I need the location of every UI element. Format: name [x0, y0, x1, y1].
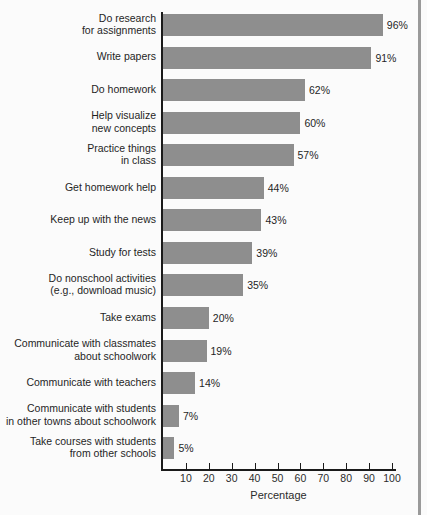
category-label: Communicate with students in other towns…: [0, 402, 156, 427]
bar: [163, 405, 179, 427]
bar: [163, 372, 195, 394]
x-axis-tick-label: 70: [317, 472, 329, 484]
bar-value-label: 39%: [256, 247, 277, 259]
x-axis-tick: [186, 463, 187, 470]
bar: [163, 242, 252, 264]
figure-right-rule: [418, 0, 421, 515]
x-axis-tick-label: 90: [363, 472, 375, 484]
bar: [163, 144, 294, 166]
x-axis-tick-label: 10: [180, 472, 192, 484]
category-label: Study for tests: [0, 246, 156, 259]
x-axis-tick: [278, 463, 279, 470]
x-axis-tick: [255, 463, 256, 470]
bar-value-label: 19%: [211, 345, 232, 357]
category-label: Get homework help: [0, 181, 156, 194]
bar-value-label: 96%: [387, 19, 408, 31]
category-label: Take exams: [0, 311, 156, 324]
bar-value-label: 91%: [375, 52, 396, 64]
bar-chart-figure: Do research for assignments96%Write pape…: [0, 0, 427, 515]
bar: [163, 14, 383, 36]
bar-value-label: 62%: [309, 84, 330, 96]
category-label: Communicate with classmates about school…: [0, 337, 156, 362]
x-axis-tick-label: 100: [383, 472, 401, 484]
category-label: Practice things in class: [0, 142, 156, 167]
x-axis-tick-label: 30: [226, 472, 238, 484]
bar: [163, 79, 305, 101]
x-axis-tick-label: 60: [295, 472, 307, 484]
bar-value-label: 43%: [265, 214, 286, 226]
x-axis-tick: [392, 463, 393, 470]
category-label: Do nonschool activities (e.g., download …: [0, 272, 156, 297]
x-axis-tick: [232, 463, 233, 470]
bar-value-label: 57%: [298, 149, 319, 161]
value-axis-line: [161, 469, 396, 471]
bar-value-label: 7%: [183, 410, 198, 422]
bar: [163, 340, 207, 362]
x-axis-tick: [369, 463, 370, 470]
bar: [163, 274, 243, 296]
x-axis-tick-label: 40: [249, 472, 261, 484]
bar-value-label: 44%: [268, 182, 289, 194]
bar: [163, 47, 371, 69]
x-axis-tick: [323, 463, 324, 470]
bar-value-label: 60%: [304, 117, 325, 129]
bar: [163, 112, 300, 134]
bar: [163, 209, 261, 231]
x-axis-tick-label: 50: [272, 472, 284, 484]
category-label: Help visualize new concepts: [0, 109, 156, 134]
bar: [163, 307, 209, 329]
bar: [163, 177, 264, 199]
category-label: Take courses with students from other sc…: [0, 435, 156, 460]
bar-value-label: 5%: [178, 442, 193, 454]
category-label: Keep up with the news: [0, 213, 156, 226]
bar-value-label: 20%: [213, 312, 234, 324]
category-label: Do research for assignments: [0, 12, 156, 37]
x-axis-tick: [346, 463, 347, 470]
x-axis-tick: [300, 463, 301, 470]
x-axis-tick: [209, 463, 210, 470]
category-label: Do homework: [0, 83, 156, 96]
plot-area: Do research for assignments96%Write pape…: [0, 0, 418, 515]
x-axis-tick-label: 20: [203, 472, 215, 484]
category-label: Communicate with teachers: [0, 376, 156, 389]
bar-value-label: 35%: [247, 279, 268, 291]
bar-value-label: 14%: [199, 377, 220, 389]
x-axis-tick-label: 80: [340, 472, 352, 484]
bar: [163, 437, 174, 459]
category-label: Write papers: [0, 50, 156, 63]
x-axis-title: Percentage: [161, 489, 396, 501]
